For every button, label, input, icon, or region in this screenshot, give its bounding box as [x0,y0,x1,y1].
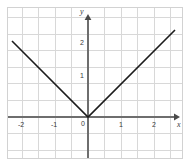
origin-label: 0 [81,120,85,127]
x-tick-label-neg2: -2 [18,121,24,128]
y-tick-label-pos1: 1 [80,72,84,79]
curve-layer [0,0,190,166]
x-tick-label-neg1: -1 [51,121,57,128]
x-axis-label: x [177,121,181,129]
absolute-value-curve [12,30,175,117]
absolute-value-graph-figure: -2 -1 1 2 1 2 0 x y [0,0,190,166]
y-tick-label-pos2: 2 [80,39,84,46]
x-tick-label-pos1: 1 [119,121,123,128]
x-tick-label-pos2: 2 [152,121,156,128]
y-axis-label: y [80,8,84,16]
